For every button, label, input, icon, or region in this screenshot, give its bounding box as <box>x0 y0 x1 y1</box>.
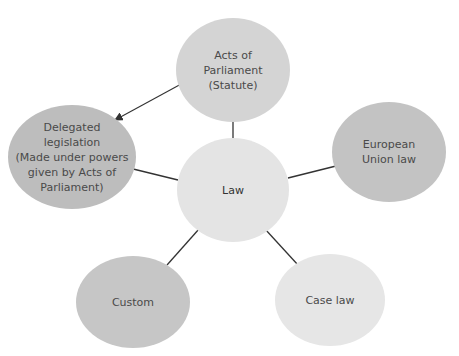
node-label: European Union law <box>362 137 416 167</box>
node-label: Custom <box>112 295 154 310</box>
node-law-center: Law <box>177 138 289 242</box>
node-custom: Custom <box>76 256 190 348</box>
edge-law-caselaw <box>265 229 298 265</box>
edge-law-eu <box>288 166 336 178</box>
node-acts-of-parliament: Acts of Parliament (Statute) <box>176 18 290 122</box>
edge-law-custom <box>167 229 199 265</box>
node-european-union-law: European Union law <box>332 102 446 202</box>
node-label: Acts of Parliament (Statute) <box>203 48 262 93</box>
node-case-law: Case law <box>275 254 385 346</box>
node-label: Delegated legislation (Made under powers… <box>15 120 128 195</box>
node-delegated-legislation: Delegated legislation (Made under powers… <box>8 105 136 209</box>
node-label: Case law <box>305 293 354 308</box>
edge-acts-delegated-arrow <box>115 83 183 120</box>
node-label: Law <box>222 183 244 198</box>
